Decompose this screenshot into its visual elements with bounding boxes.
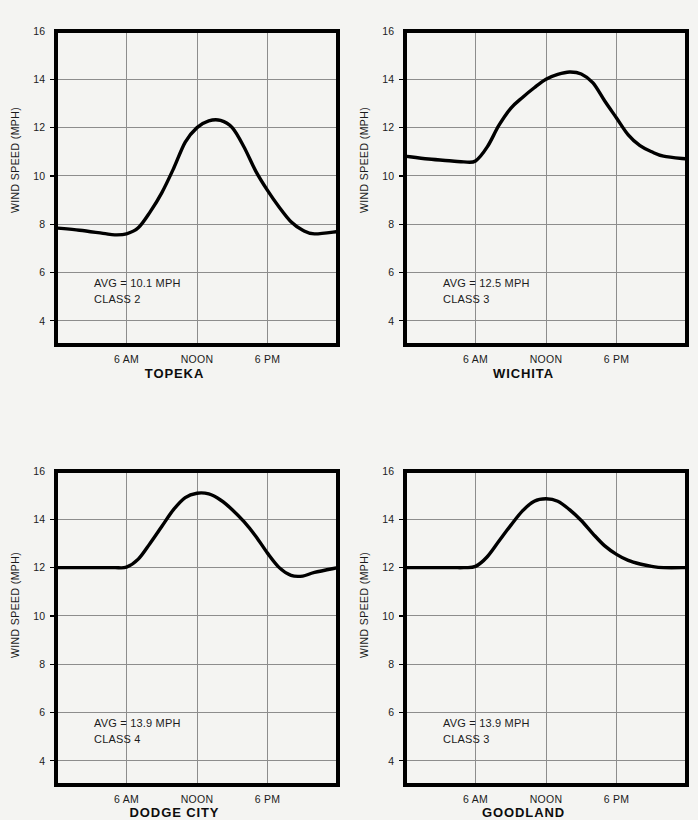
annotation-average: AVG = 13.9 MPH xyxy=(94,717,181,729)
y-tick-label: 12 xyxy=(382,121,394,133)
y-tick-label: 4 xyxy=(39,315,45,327)
annotation-class: CLASS 4 xyxy=(94,733,141,745)
y-tick-label: 16 xyxy=(33,465,45,477)
y-tick-label: 12 xyxy=(33,561,45,573)
plot-svg-topeka: 161412108646 AMNOON6 PMAVG = 10.1 MPHCLA… xyxy=(0,0,349,380)
y-tick-label: 10 xyxy=(33,610,45,622)
annotation-class: CLASS 2 xyxy=(94,293,141,305)
x-tick-label: 6 AM xyxy=(114,353,139,365)
annotation-average: AVG = 10.1 MPH xyxy=(94,277,181,289)
y-tick-label: 4 xyxy=(388,315,394,327)
y-tick-label: 10 xyxy=(382,170,394,182)
panel-dodge-city: WIND SPEED (MPH) 161412108646 AMNOON6 PM… xyxy=(0,405,349,809)
y-tick-label: 6 xyxy=(388,706,394,718)
y-axis-title-dodge-city: WIND SPEED (MPH) xyxy=(2,445,28,765)
y-tick-label: 14 xyxy=(33,513,45,525)
panel-wichita: WIND SPEED (MPH) 161412108646 AMNOON6 PM… xyxy=(349,0,698,404)
y-tick-label: 4 xyxy=(39,755,45,767)
y-axis-title-topeka: WIND SPEED (MPH) xyxy=(2,0,28,320)
y-tick-label: 16 xyxy=(382,465,394,477)
x-tick-label: 6 PM xyxy=(255,353,281,365)
panel-title-dodge-city: DODGE CITY xyxy=(0,805,349,820)
y-tick-label: 6 xyxy=(39,706,45,718)
y-tick-label: 10 xyxy=(33,170,45,182)
y-tick-label: 14 xyxy=(382,73,394,85)
y-axis-title-goodland: WIND SPEED (MPH) xyxy=(351,445,377,765)
x-tick-label: 6 PM xyxy=(255,793,281,805)
annotation-class: CLASS 3 xyxy=(443,733,490,745)
y-tick-label: 4 xyxy=(388,755,394,767)
y-tick-label: 14 xyxy=(33,73,45,85)
x-tick-label: NOON xyxy=(530,353,563,365)
y-tick-label: 8 xyxy=(388,218,394,230)
plot-svg-goodland: 161412108646 AMNOON6 PMAVG = 13.9 MPHCLA… xyxy=(349,440,698,820)
y-tick-label: 12 xyxy=(33,121,45,133)
y-tick-label: 10 xyxy=(382,610,394,622)
y-tick-label: 16 xyxy=(33,25,45,37)
x-tick-label: 6 PM xyxy=(604,793,630,805)
plot-svg-wichita: 161412108646 AMNOON6 PMAVG = 12.5 MPHCLA… xyxy=(349,0,698,380)
y-axis-title-wichita: WIND SPEED (MPH) xyxy=(351,0,377,320)
y-tick-label: 8 xyxy=(39,218,45,230)
x-tick-label: 6 AM xyxy=(463,793,488,805)
panel-topeka: WIND SPEED (MPH) 161412108646 AMNOON6 PM… xyxy=(0,0,349,404)
y-tick-label: 8 xyxy=(388,658,394,670)
y-tick-label: 8 xyxy=(39,658,45,670)
x-tick-label: 6 PM xyxy=(604,353,630,365)
y-tick-label: 6 xyxy=(388,266,394,278)
annotation-average: AVG = 13.9 MPH xyxy=(443,717,530,729)
x-tick-label: NOON xyxy=(530,793,563,805)
y-tick-label: 16 xyxy=(382,25,394,37)
y-tick-label: 12 xyxy=(382,561,394,573)
x-tick-label: 6 AM xyxy=(114,793,139,805)
plot-svg-dodge-city: 161412108646 AMNOON6 PMAVG = 13.9 MPHCLA… xyxy=(0,440,349,820)
panel-title-wichita: WICHITA xyxy=(349,366,698,381)
panel-title-goodland: GOODLAND xyxy=(349,805,698,820)
x-tick-label: 6 AM xyxy=(463,353,488,365)
y-tick-label: 6 xyxy=(39,266,45,278)
annotation-average: AVG = 12.5 MPH xyxy=(443,277,530,289)
y-tick-label: 14 xyxy=(382,513,394,525)
annotation-class: CLASS 3 xyxy=(443,293,490,305)
panel-title-topeka: TOPEKA xyxy=(0,366,349,381)
x-tick-label: NOON xyxy=(181,793,214,805)
panel-goodland: WIND SPEED (MPH) 161412108646 AMNOON6 PM… xyxy=(349,405,698,809)
x-tick-label: NOON xyxy=(181,353,214,365)
